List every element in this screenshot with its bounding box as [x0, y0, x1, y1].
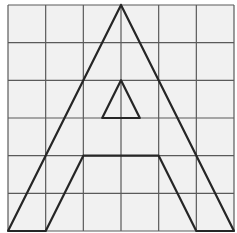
diagram-canvas — [0, 0, 237, 233]
letter-a-grid-diagram — [0, 0, 237, 233]
